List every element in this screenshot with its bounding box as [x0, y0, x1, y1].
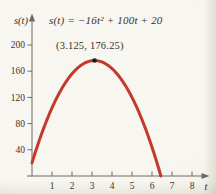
x-tick-label: 5 [130, 181, 135, 191]
y-tick-label: 200 [11, 40, 26, 50]
y-axis-arrowhead-icon [29, 14, 35, 22]
x-axis-arrowhead-icon [202, 173, 210, 179]
y-tick-label: 120 [11, 93, 26, 103]
vertex-point-label: (3.125, 176.25) [56, 40, 124, 51]
x-tick-label: 1 [50, 181, 55, 191]
x-tick-label: 7 [170, 181, 175, 191]
vertex-point [92, 58, 97, 63]
x-tick-label: 3 [90, 181, 95, 191]
x-tick-label: 8 [190, 181, 195, 191]
y-tick-label: 80 [16, 119, 26, 129]
x-axis-title: t [205, 181, 209, 192]
equation-label: s(t) = −16t² + 100t + 20 [49, 14, 163, 26]
y-tick-label: 160 [11, 66, 26, 76]
parabola-figure: 408012016020012345678s(t)t s(t) = −16t² … [0, 0, 216, 194]
y-tick-label: 40 [16, 145, 26, 155]
x-tick-label: 6 [150, 181, 155, 191]
x-tick-label: 2 [70, 181, 75, 191]
y-axis-title: s(t) [14, 15, 29, 27]
x-tick-label: 4 [110, 181, 115, 191]
parabola-curve [32, 61, 161, 176]
plot-canvas: 408012016020012345678s(t)t [0, 0, 216, 194]
